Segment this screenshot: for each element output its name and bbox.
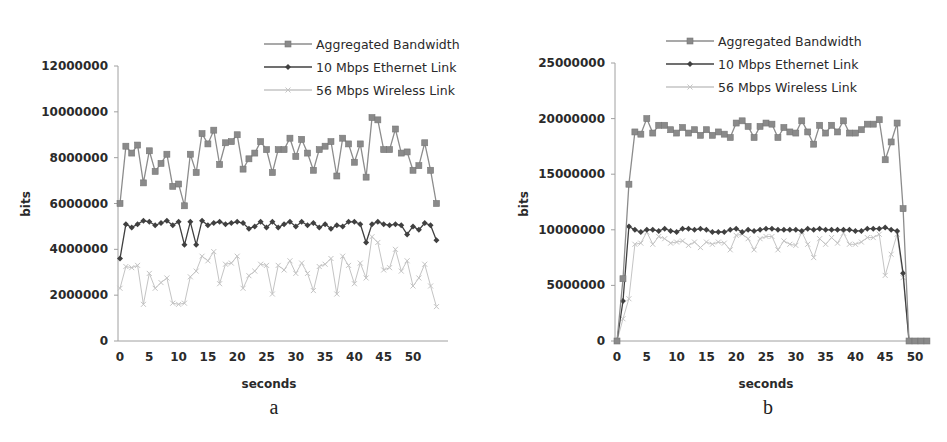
- data-point: [894, 228, 900, 234]
- data-point: [135, 221, 141, 227]
- data-point: [763, 120, 769, 126]
- data-point: [888, 227, 894, 233]
- data-point: [662, 122, 668, 128]
- data-point: [864, 121, 870, 127]
- data-point: [217, 162, 223, 168]
- data-point: [146, 148, 152, 154]
- legend-item-aggregated-bandwidth: Aggregated Bandwidth: [264, 37, 460, 52]
- data-point: [697, 226, 703, 232]
- legend-marker-icon: [687, 38, 693, 44]
- data-point: [626, 181, 632, 187]
- data-point: [246, 273, 251, 278]
- data-point: [835, 241, 840, 246]
- data-point: [140, 180, 146, 186]
- y-tick-label: 0: [597, 334, 605, 348]
- data-point: [299, 261, 304, 266]
- data-point: [709, 229, 715, 235]
- data-point: [375, 117, 381, 123]
- data-point: [159, 280, 164, 285]
- data-point: [638, 229, 644, 235]
- data-point: [205, 141, 211, 147]
- data-point: [205, 258, 210, 263]
- data-point: [632, 129, 638, 135]
- data-point: [846, 130, 852, 136]
- data-point: [200, 254, 205, 259]
- data-point: [704, 240, 709, 245]
- data-point: [293, 271, 298, 276]
- data-point: [199, 131, 205, 137]
- legend-marker-icon: [285, 41, 291, 47]
- chart-a: 0200000040000006000000800000010000000120…: [19, 37, 460, 419]
- x-tick-label: 25: [258, 350, 275, 364]
- x-ticks: 05101520253035404550: [613, 350, 924, 364]
- data-point: [864, 226, 870, 232]
- data-point: [299, 136, 305, 142]
- data-point: [924, 338, 930, 344]
- data-point: [758, 236, 763, 241]
- data-point: [912, 338, 918, 344]
- data-point: [727, 135, 733, 141]
- data-point: [433, 201, 439, 207]
- data-point: [859, 240, 864, 245]
- data-point: [751, 135, 757, 141]
- data-point: [638, 131, 644, 137]
- data-point: [375, 219, 381, 225]
- data-point: [193, 242, 199, 248]
- data-point: [793, 227, 799, 233]
- data-point: [287, 258, 292, 263]
- data-point: [799, 228, 805, 234]
- data-point: [775, 227, 781, 233]
- data-point: [650, 227, 656, 233]
- x-tick-label: 10: [170, 350, 187, 364]
- data-point: [876, 117, 882, 123]
- data-point: [858, 228, 864, 234]
- data-point: [334, 173, 340, 179]
- y-tick-label: 5000000: [547, 278, 605, 292]
- x-tick-label: 15: [200, 350, 217, 364]
- data-point: [410, 167, 416, 173]
- data-point: [153, 286, 158, 291]
- x-tick-label: 50: [405, 350, 422, 364]
- data-point: [668, 127, 674, 133]
- data-point: [357, 141, 363, 147]
- data-point: [703, 227, 709, 233]
- series-line: [120, 118, 436, 206]
- data-point: [745, 227, 751, 233]
- data-point: [152, 168, 158, 174]
- data-point: [211, 127, 217, 133]
- x-axis-label: seconds: [739, 377, 794, 391]
- data-point: [805, 129, 811, 135]
- data-point: [340, 135, 346, 141]
- y-tick-label: 10000000: [41, 105, 108, 119]
- data-point: [763, 226, 769, 232]
- data-point: [751, 228, 757, 234]
- data-point: [752, 247, 757, 252]
- data-point: [656, 234, 661, 239]
- x-ticks: 05101520253035404550: [116, 350, 422, 364]
- series-group: [117, 115, 439, 310]
- data-point: [351, 159, 357, 165]
- caption-b: b: [763, 396, 773, 418]
- legend-item-aggregated-bandwidth: Aggregated Bandwidth: [666, 34, 862, 49]
- series-56-mbps-wireless-link: [118, 234, 439, 309]
- data-point: [217, 219, 223, 225]
- x-tick-label: 30: [787, 350, 804, 364]
- y-axis-label: bits: [517, 191, 531, 217]
- data-point: [387, 222, 393, 228]
- data-point: [668, 228, 674, 234]
- data-point: [146, 219, 152, 225]
- x-tick-label: 5: [643, 350, 651, 364]
- x-tick-label: 25: [758, 350, 775, 364]
- data-point: [387, 147, 393, 153]
- data-point: [656, 122, 662, 128]
- data-point: [733, 226, 739, 232]
- data-point: [387, 265, 392, 270]
- data-point: [721, 229, 727, 235]
- data-point: [246, 156, 252, 162]
- data-point: [398, 150, 404, 156]
- data-point: [234, 219, 240, 225]
- data-point: [152, 222, 158, 228]
- x-tick-label: 20: [728, 350, 745, 364]
- data-point: [258, 139, 264, 145]
- data-point: [328, 139, 334, 145]
